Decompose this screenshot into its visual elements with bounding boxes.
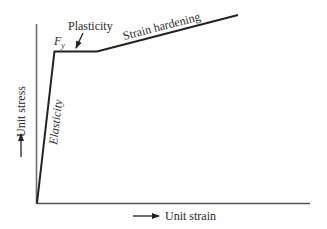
yield-point-label: Fy [53, 34, 65, 50]
plasticity-arrow-icon [76, 33, 83, 48]
strain-hardening-label: Strain hardening [121, 9, 202, 42]
y-axis-label: Unit stress [14, 86, 28, 137]
plasticity-label: Plasticity [68, 19, 113, 33]
stress-strain-diagram: Fy Plasticity Strain hardening Elasticit… [0, 0, 327, 229]
x-axis-label: Unit strain [165, 209, 216, 223]
